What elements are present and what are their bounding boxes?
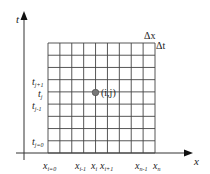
x-tick-i-0: xi=0 xyxy=(43,161,56,174)
t-tick-j-minus-1: tj-1 xyxy=(32,101,41,114)
t-axis xyxy=(21,11,28,160)
grid-node-label: (i,j) xyxy=(101,88,116,98)
x-tick-i-minus-1: xi-1 xyxy=(75,161,86,174)
x-tick-i: xi xyxy=(91,161,97,174)
t-tick-j-0: tj=0 xyxy=(32,137,44,150)
x-axis-label: x xyxy=(194,156,199,166)
finite-difference-diagram: t x Δx Δt tj+1 tj tj-1 tj=0 xi=0 xi-1 xi… xyxy=(0,0,210,174)
x-tick-n: xn xyxy=(153,161,160,174)
grid-node-dot xyxy=(92,89,99,96)
mesh-grid xyxy=(48,43,155,153)
x-tick-n-minus-1: xn-1 xyxy=(135,161,147,174)
x-axis-arrow-icon xyxy=(184,150,193,157)
t-axis-label: t xyxy=(16,14,19,24)
t-axis-arrow-icon xyxy=(21,11,28,20)
x-tick-i-plus-1: xi+1 xyxy=(100,161,113,174)
delta-x-label: Δx xyxy=(144,31,155,41)
delta-t-label: Δt xyxy=(156,41,165,51)
